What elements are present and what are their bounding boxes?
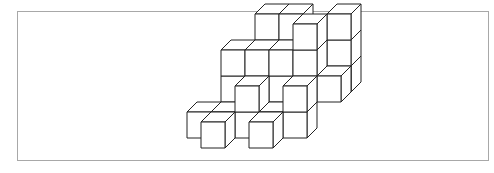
cube-front-face [221,50,245,76]
cube-front-face [293,50,317,76]
cube-front-face [255,14,279,40]
cube-front-face [269,50,293,76]
cube-front-face [283,112,307,138]
cube-front-face [235,86,259,112]
cube [201,112,235,148]
cube-front-face [327,40,351,66]
cube-front-face [327,14,351,40]
cube [293,14,327,50]
cube [249,112,283,148]
cube-front-face [201,122,225,148]
cube [327,4,361,40]
cube-front-face [317,76,341,102]
cube [235,76,269,112]
cube [283,76,317,112]
cube-front-face [249,122,273,148]
cube-front-face [245,50,269,76]
cube-front-face [283,86,307,112]
cube-stack-figure [0,0,494,173]
cube-front-face [293,24,317,50]
